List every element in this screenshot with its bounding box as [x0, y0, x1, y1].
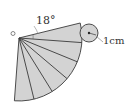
angle-leader-line: [34, 26, 38, 34]
apex-point-marker: [11, 32, 15, 36]
radius-leader-line: [96, 36, 103, 42]
radius-label: 1cm: [103, 35, 125, 46]
cone-net-diagram: 18° 1cm: [0, 0, 134, 105]
sector-fan: [14, 23, 82, 101]
angle-label: 18°: [36, 14, 56, 27]
small-circle: [80, 24, 103, 42]
